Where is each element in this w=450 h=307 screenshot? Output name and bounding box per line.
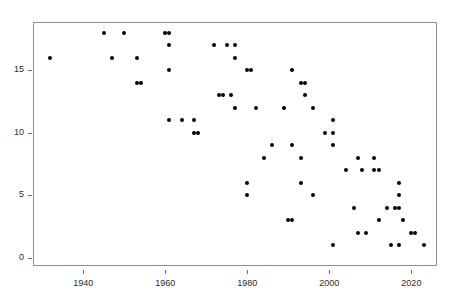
data-point (389, 243, 393, 247)
data-point (122, 31, 126, 35)
data-point (356, 156, 360, 160)
data-point (110, 56, 114, 60)
data-point (360, 168, 364, 172)
data-point (377, 218, 381, 222)
data-point (377, 168, 381, 172)
scatter-plot-figure: 05101519401960198020002020 (0, 0, 450, 307)
data-point (303, 81, 307, 85)
data-point (233, 43, 237, 47)
data-point (167, 31, 171, 35)
data-point (282, 106, 286, 110)
data-point (249, 68, 253, 72)
data-point (225, 43, 229, 47)
data-point (290, 143, 294, 147)
data-point (422, 243, 426, 247)
data-point (270, 143, 274, 147)
data-point (331, 118, 335, 122)
data-point (352, 206, 356, 210)
data-point (401, 218, 405, 222)
data-point (196, 131, 200, 135)
data-point (212, 43, 216, 47)
data-point (290, 68, 294, 72)
data-point (331, 143, 335, 147)
data-point (331, 131, 335, 135)
data-point (245, 193, 249, 197)
data-point (397, 193, 401, 197)
data-point (139, 81, 143, 85)
data-point (233, 106, 237, 110)
data-point (364, 231, 368, 235)
data-point (331, 243, 335, 247)
data-point (397, 206, 401, 210)
data-point (254, 106, 258, 110)
data-point (385, 206, 389, 210)
data-point (233, 56, 237, 60)
data-point (229, 93, 233, 97)
data-point (356, 231, 360, 235)
data-point (303, 93, 307, 97)
data-point (299, 181, 303, 185)
data-point (102, 31, 106, 35)
data-point (48, 56, 52, 60)
data-point (290, 218, 294, 222)
data-point (245, 181, 249, 185)
data-point (372, 156, 376, 160)
data-point (180, 118, 184, 122)
data-point (192, 118, 196, 122)
data-point (397, 243, 401, 247)
data-point (397, 181, 401, 185)
data-point (299, 156, 303, 160)
data-points-layer (0, 0, 450, 307)
data-point (135, 56, 139, 60)
data-point (311, 193, 315, 197)
data-point (344, 168, 348, 172)
data-point (167, 118, 171, 122)
data-point (413, 231, 417, 235)
data-point (323, 131, 327, 135)
data-point (311, 106, 315, 110)
data-point (221, 93, 225, 97)
data-point (262, 156, 266, 160)
data-point (167, 43, 171, 47)
data-point (167, 68, 171, 72)
